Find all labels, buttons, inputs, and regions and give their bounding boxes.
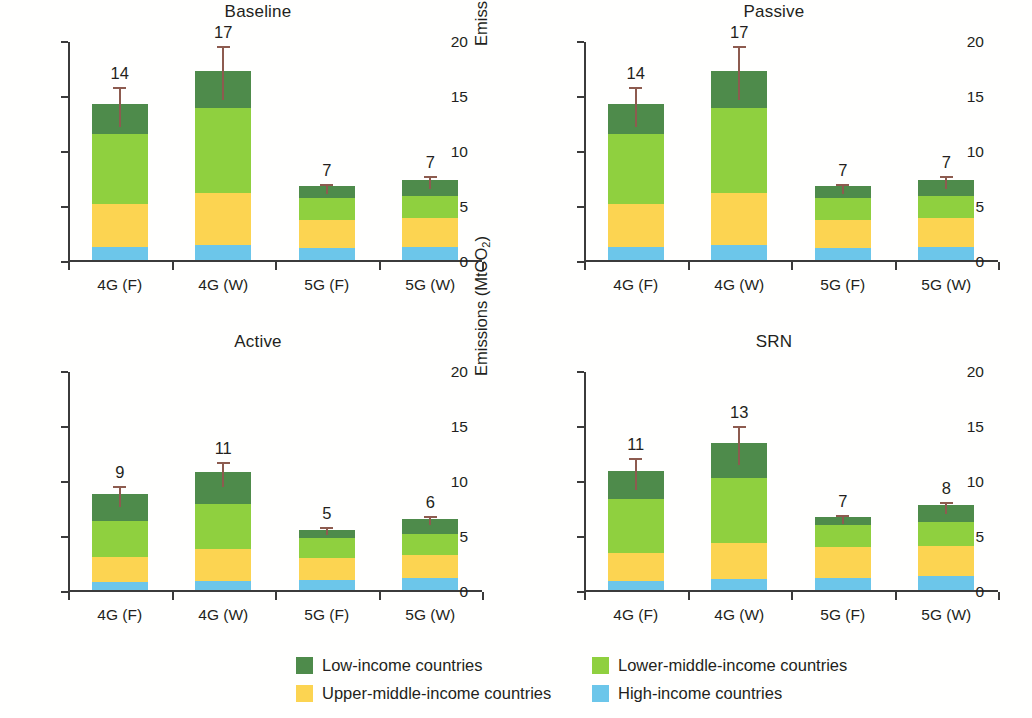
y-axis-tick-label: 5 (975, 199, 984, 215)
y-axis-tick (61, 371, 68, 373)
x-axis-tick (275, 592, 277, 600)
x-axis-category-label: 4G (F) (594, 606, 678, 624)
y-axis-tick (577, 591, 584, 593)
bar-segment-lowermid (815, 198, 871, 220)
bar-segment-lowermid (918, 196, 974, 219)
chart-legend: Low-income countries Lower-middle-income… (0, 652, 1032, 718)
bar-5gf (299, 530, 355, 591)
y-axis-title: Emissions (MtCO2) (472, 176, 492, 376)
y-axis-tick-label: 5 (459, 199, 468, 215)
bar-5gw (918, 505, 974, 590)
bar-segment-uppermid (711, 193, 767, 245)
bar-segment-uppermid (92, 204, 148, 247)
error-bar-cap (217, 462, 230, 464)
panel-baseline: Baseline 05101520144G (F)174G (W)75G (F)… (0, 0, 516, 320)
bar-segment-high (918, 576, 974, 590)
bar-segment-high (918, 247, 974, 260)
legend-swatch-icon (296, 685, 313, 702)
x-axis-category-label: 4G (W) (181, 606, 265, 624)
y-axis-line (68, 372, 70, 592)
y-axis-tick (61, 151, 68, 153)
y-axis-tick (61, 206, 68, 208)
bar-5gf (815, 517, 871, 590)
bar-5gw (402, 519, 458, 591)
y-axis-tick-label: 5 (975, 529, 984, 545)
x-axis-category-label: 5G (W) (388, 276, 472, 294)
x-axis-category-label: 5G (W) (904, 606, 988, 624)
y-axis-tick (577, 426, 584, 428)
y-axis-title: Emissions (MtCO2) (472, 0, 492, 46)
x-axis-category-label: 5G (W) (388, 606, 472, 624)
y-axis-tick (577, 151, 584, 153)
bar-segment-high (402, 578, 458, 590)
y-axis-tick (577, 261, 584, 263)
y-axis-tick-label: 15 (967, 419, 984, 435)
bar-value-label: 6 (400, 494, 460, 511)
y-axis-tick (577, 206, 584, 208)
x-axis-tick (998, 262, 1000, 270)
error-bar-line (635, 458, 637, 490)
y-axis-tick (61, 536, 68, 538)
error-bar-cap (424, 516, 437, 518)
bar-5gf (815, 186, 871, 260)
plot-area: 05101520144G (F)174G (W)75G (F)75G (W) (68, 42, 482, 262)
y-axis-tick-label: 20 (967, 364, 984, 380)
x-axis-tick (791, 262, 793, 270)
panel-title: SRN (516, 332, 1032, 352)
bar-segment-uppermid (299, 220, 355, 248)
bar-segment-uppermid (402, 218, 458, 247)
x-axis-tick (482, 592, 484, 600)
error-bar-cap (733, 426, 746, 428)
error-bar-cap (836, 515, 849, 517)
x-axis-category-label: 5G (F) (801, 276, 885, 294)
bar-5gw (918, 180, 974, 260)
y-axis-tick (61, 41, 68, 43)
bar-segment-lowermid (918, 522, 974, 546)
bar-segment-lowermid (815, 525, 871, 547)
bar-value-label: 7 (400, 154, 460, 171)
bar-segment-uppermid (918, 218, 974, 247)
x-axis-tick (68, 262, 70, 270)
bar-segment-uppermid (608, 553, 664, 582)
x-axis-tick (791, 592, 793, 600)
bar-segment-lowermid (711, 478, 767, 543)
y-axis-tick-label: 20 (451, 364, 468, 380)
x-axis-category-label: 4G (F) (78, 606, 162, 624)
bar-value-label: 11 (193, 440, 253, 457)
panel-passive: Passive 05101520144G (F)174G (W)75G (F)7… (516, 0, 1032, 320)
legend-item-upper-middle-income: Upper-middle-income countries (296, 684, 551, 703)
x-axis-tick (172, 592, 174, 600)
y-axis-tick (61, 591, 68, 593)
bar-value-label: 17 (709, 24, 769, 41)
bar-segment-lowermid (402, 196, 458, 219)
error-bar-line (222, 462, 224, 487)
bar-segment-high (608, 581, 664, 590)
bar-segment-high (195, 581, 251, 590)
legend-label: Lower-middle-income countries (618, 656, 847, 675)
error-bar-line (222, 46, 224, 100)
error-bar-cap (629, 87, 642, 89)
bar-segment-uppermid (608, 204, 664, 247)
y-axis-line (68, 42, 70, 262)
bar-5gf (299, 186, 355, 260)
y-axis-tick (577, 481, 584, 483)
error-bar-cap (733, 46, 746, 48)
y-axis-tick-label: 0 (975, 584, 984, 600)
error-bar-cap (940, 502, 953, 504)
bar-value-label: 17 (193, 24, 253, 41)
bar-segment-lowermid (92, 134, 148, 204)
y-axis-tick (61, 426, 68, 428)
y-axis-tick-label: 15 (451, 419, 468, 435)
bar-segment-uppermid (195, 193, 251, 245)
y-axis-tick-label: 0 (459, 584, 468, 600)
x-axis-tick (68, 592, 70, 600)
bar-segment-uppermid (92, 557, 148, 582)
x-axis-tick (688, 592, 690, 600)
x-axis-tick (584, 262, 586, 270)
bar-segment-uppermid (815, 220, 871, 248)
x-axis-tick (172, 262, 174, 270)
legend-item-low-income: Low-income countries (296, 656, 483, 675)
y-axis-tick (577, 536, 584, 538)
bar-segment-high (299, 580, 355, 590)
error-bar-cap (113, 486, 126, 488)
